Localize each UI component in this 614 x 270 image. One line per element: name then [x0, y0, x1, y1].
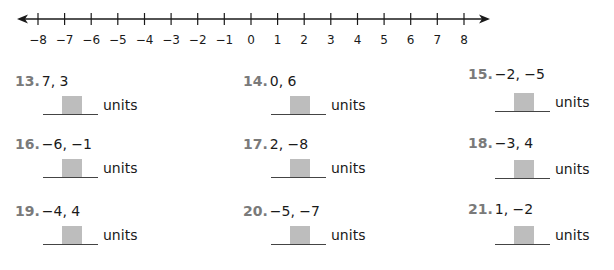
units-label: units	[103, 160, 137, 176]
tick-label: 2	[292, 33, 316, 47]
tick-label: 1	[266, 33, 290, 47]
problem-number: 17.	[243, 136, 268, 152]
tick-label: −5	[106, 33, 130, 47]
problem-values: −5, −7	[270, 203, 320, 219]
problem-number: 14.	[243, 73, 268, 89]
problem-number: 16.	[15, 136, 40, 152]
answer-field[interactable]: units	[271, 223, 391, 245]
problem-number: 15.	[468, 66, 493, 82]
answer-box[interactable]	[62, 96, 82, 114]
answer-field[interactable]: units	[43, 156, 163, 178]
answer-blank-line	[43, 177, 98, 178]
answer-box[interactable]	[290, 226, 310, 244]
problem-16: 16.−6, −1 units	[15, 136, 165, 186]
problem-14: 14.0, 6 units	[243, 73, 393, 123]
problem-values: 2, −8	[270, 136, 308, 152]
number-line: −8 −7 −6 −5 −4 −3 −2 −1 0 1 2 3 4 5 6 7 …	[0, 0, 614, 55]
number-line-axis	[0, 5, 614, 35]
problem-values: −4, 4	[42, 203, 80, 219]
answer-box[interactable]	[514, 93, 534, 111]
problem-values: 7, 3	[42, 73, 69, 89]
problem-21: 21.1, −2 units	[468, 201, 614, 251]
tick-label: −8	[26, 33, 50, 47]
problem-number: 20.	[243, 203, 268, 219]
problem-19: 19.−4, 4 units	[15, 203, 165, 253]
tick-label: −7	[53, 33, 77, 47]
answer-blank-line	[495, 244, 550, 245]
answer-field[interactable]: units	[271, 156, 391, 178]
problem-number: 13.	[15, 73, 40, 89]
tick-label: 6	[399, 33, 423, 47]
tick-label: 7	[425, 33, 449, 47]
answer-blank-line	[495, 178, 550, 179]
problem-values: 0, 6	[270, 73, 297, 89]
problem-number: 18.	[468, 135, 493, 151]
units-label: units	[555, 161, 589, 177]
answer-field[interactable]: units	[43, 93, 163, 115]
answer-field[interactable]: units	[271, 93, 391, 115]
problem-number: 21.	[468, 201, 493, 217]
answer-box[interactable]	[290, 96, 310, 114]
units-label: units	[331, 160, 365, 176]
problem-13: 13.7, 3 units	[15, 73, 165, 123]
units-label: units	[103, 97, 137, 113]
problem-17: 17.2, −8 units	[243, 136, 393, 186]
answer-blank-line	[43, 114, 98, 115]
units-label: units	[331, 227, 365, 243]
tick-label: −4	[133, 33, 157, 47]
answer-field[interactable]: units	[43, 223, 163, 245]
units-label: units	[331, 97, 365, 113]
tick-label: −3	[159, 33, 183, 47]
answer-blank-line	[271, 177, 326, 178]
tick-label: 5	[372, 33, 396, 47]
answer-field[interactable]: units	[495, 90, 614, 112]
tick-label: 4	[346, 33, 370, 47]
answer-field[interactable]: units	[495, 223, 614, 245]
units-label: units	[103, 227, 137, 243]
problem-values: −3, 4	[495, 135, 533, 151]
answer-box[interactable]	[514, 226, 534, 244]
answer-box[interactable]	[62, 226, 82, 244]
problem-values: −2, −5	[495, 66, 545, 82]
answer-blank-line	[495, 111, 550, 112]
answer-blank-line	[43, 244, 98, 245]
problem-18: 18.−3, 4 units	[468, 135, 614, 185]
tick-label: −6	[79, 33, 103, 47]
tick-label: 8	[452, 33, 476, 47]
answer-blank-line	[271, 114, 326, 115]
tick-label: −2	[186, 33, 210, 47]
problem-values: 1, −2	[495, 201, 533, 217]
problem-number: 19.	[15, 203, 40, 219]
tick-label: −1	[212, 33, 236, 47]
answer-blank-line	[271, 244, 326, 245]
tick-label: 0	[239, 33, 263, 47]
answer-box[interactable]	[62, 159, 82, 177]
problem-20: 20.−5, −7 units	[243, 203, 393, 253]
problem-values: −6, −1	[42, 136, 92, 152]
answer-field[interactable]: units	[495, 157, 614, 179]
answer-box[interactable]	[290, 159, 310, 177]
answer-box[interactable]	[514, 160, 534, 178]
units-label: units	[555, 227, 589, 243]
tick-label: 3	[319, 33, 343, 47]
problem-15: 15.−2, −5 units	[468, 66, 614, 116]
units-label: units	[555, 94, 589, 110]
